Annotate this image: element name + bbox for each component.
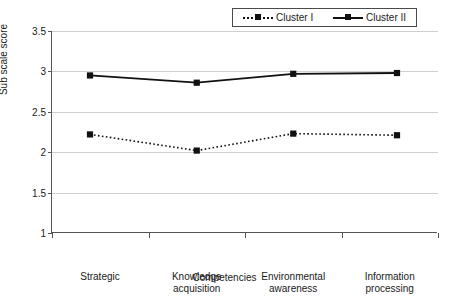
data-point: [87, 72, 93, 78]
x-tick-mark: [52, 233, 53, 238]
x-tick-mark: [149, 233, 150, 238]
series-markers-cluster-i: [87, 131, 400, 154]
data-point: [290, 71, 296, 77]
chart-legend: Cluster I Cluster II: [232, 8, 417, 27]
legend-swatch-solid-square-icon: [333, 13, 363, 23]
y-axis-title: Sub scale score: [0, 0, 9, 125]
data-point: [194, 80, 200, 86]
x-tick-mark: [438, 233, 439, 238]
series-line-cluster-i: [90, 134, 397, 151]
legend-entry-cluster-ii: Cluster II: [333, 13, 406, 23]
chart-figure: Cluster I Cluster II 3.5 3 2.5 2 1.5 1 S…: [0, 0, 449, 297]
x-tick-mark: [342, 233, 343, 238]
legend-swatch-dotted-square-icon: [243, 13, 273, 23]
legend-entry-cluster-i: Cluster I: [243, 13, 313, 23]
plot-area: Strategic Knowledge acquisition Environm…: [51, 31, 437, 233]
data-point: [290, 131, 296, 137]
series-line-cluster-ii: [90, 73, 397, 83]
y-tick-label: 2.5: [6, 106, 46, 117]
x-axis-title: Competencies: [0, 272, 449, 283]
series-layer: [52, 31, 438, 233]
y-tick-label: 1.5: [6, 187, 46, 198]
data-point: [87, 131, 93, 137]
data-point: [394, 132, 400, 138]
x-tick-mark: [245, 233, 246, 238]
data-point: [394, 70, 400, 76]
legend-label-cluster-i: Cluster I: [276, 13, 313, 23]
y-tick-label: 3: [6, 66, 46, 77]
data-point: [194, 147, 200, 153]
y-tick-label: 2: [6, 147, 46, 158]
y-tick-label: 1: [6, 228, 46, 239]
legend-label-cluster-ii: Cluster II: [366, 13, 406, 23]
y-tick-label: 3.5: [6, 26, 46, 37]
